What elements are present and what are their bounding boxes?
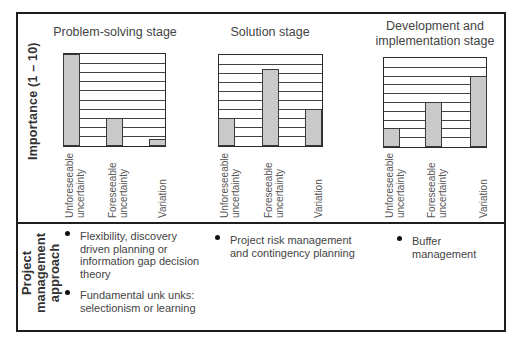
bar	[425, 102, 442, 147]
category-label: Unforeseeableuncertainty	[64, 153, 86, 218]
category-label: Unforeseeableuncertainty	[384, 153, 406, 218]
bullet-icon	[65, 290, 70, 295]
category-label: Foreseeableuncertainty	[107, 162, 129, 218]
category-label: Foreseeableuncertainty	[263, 162, 285, 218]
bar	[106, 118, 123, 146]
category-label: Foreseeableuncertainty	[426, 162, 448, 218]
bar-chart-plot	[383, 57, 487, 148]
bar	[262, 69, 279, 147]
approach-label-line: approach	[48, 224, 62, 322]
chart-title: Problem-solving stage	[40, 25, 190, 40]
bar-chart-plot	[63, 53, 166, 147]
bullet-icon	[397, 236, 402, 241]
approach-label-line: Project	[20, 224, 34, 322]
bar-chart-plot	[218, 54, 323, 147]
approach-label-line: management	[34, 224, 48, 322]
bar	[63, 54, 80, 146]
approach-item: Project risk managementand contingency p…	[230, 234, 355, 259]
chart-title: Solution stage	[195, 25, 345, 40]
bullet-icon	[65, 231, 70, 236]
approach-label: Project management approach	[20, 224, 62, 322]
section-divider	[16, 222, 506, 224]
bullet-icon	[215, 235, 220, 240]
bar	[383, 128, 400, 147]
approach-item: Fundamental unk unks:selectionism or lea…	[80, 289, 196, 314]
gridline	[384, 67, 486, 68]
gridline	[219, 64, 322, 65]
bar	[218, 118, 235, 146]
category-label: Variation	[157, 179, 168, 218]
chart-title: Development andimplementation stage	[355, 19, 515, 49]
category-label: Variation	[313, 179, 324, 218]
approach-item: Buffermanagement	[412, 235, 476, 260]
approach-item: Flexibility, discoverydriven planning or…	[80, 230, 199, 280]
bar	[305, 109, 322, 146]
bar	[149, 139, 166, 146]
category-label: Unforeseeableuncertainty	[219, 153, 241, 218]
y-axis-label: Importance (1 – 10)	[26, 42, 40, 160]
bar	[470, 76, 487, 147]
category-label: Variation	[478, 179, 489, 218]
